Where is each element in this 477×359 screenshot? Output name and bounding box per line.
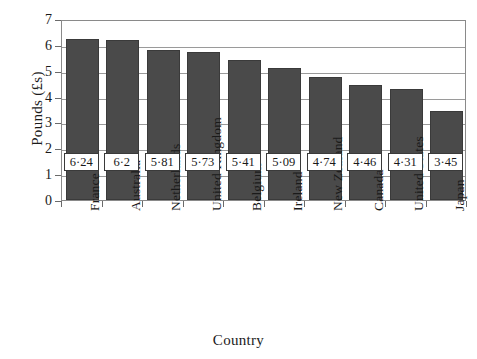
- bar-value-label: 5·73: [185, 153, 220, 171]
- bar-value-label: 5·81: [145, 153, 180, 171]
- x-axis-tick-mark: [466, 201, 467, 207]
- y-axis-tick-label: 2: [34, 142, 52, 156]
- y-axis-tick-label: 0: [34, 194, 52, 208]
- bar-value-label: 4·46: [347, 153, 382, 171]
- bar-chart-figure: Pounds (£s) 01234567 FranceAustraliaNeth…: [0, 0, 477, 359]
- x-axis-tick-mark: [142, 201, 143, 207]
- y-axis-tick-label: 4: [34, 91, 52, 105]
- bar-value-label: 6·2: [104, 153, 139, 171]
- bar-value-label: 5·41: [226, 153, 261, 171]
- bar-value-label: 4·31: [388, 153, 423, 171]
- x-axis-tick-mark: [385, 201, 386, 207]
- x-axis-tick-mark: [426, 201, 427, 207]
- x-axis-tick-mark: [304, 201, 305, 207]
- bar-value-label: 5·09: [266, 153, 301, 171]
- y-axis-tick-label: 3: [34, 116, 52, 130]
- x-axis-tick-mark: [61, 201, 62, 207]
- bar-value-label: 3·45: [428, 153, 463, 171]
- bar-value-label: 6·24: [64, 153, 99, 171]
- x-axis-title: Country: [0, 332, 477, 349]
- x-axis-tick-label: New Zealand: [330, 136, 346, 211]
- x-axis-tick-mark: [102, 201, 103, 207]
- x-axis-tick-label: United States: [411, 136, 427, 211]
- bar-value-label: 4·74: [307, 153, 342, 171]
- y-axis-tick-label: 5: [34, 65, 52, 79]
- x-axis-tick-mark: [345, 201, 346, 207]
- x-axis-tick-mark: [183, 201, 184, 207]
- y-axis-tick-label: 1: [34, 168, 52, 182]
- y-axis-tick-label: 7: [34, 13, 52, 27]
- x-axis-tick-mark: [264, 201, 265, 207]
- x-axis-tick-mark: [223, 201, 224, 207]
- y-axis-tick-label: 6: [34, 39, 52, 53]
